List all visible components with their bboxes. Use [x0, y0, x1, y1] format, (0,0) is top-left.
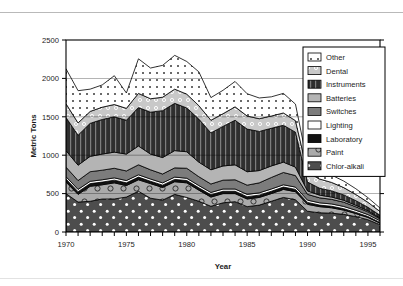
chart-legend: OtherDentalInstrumentsBatteriesSwitchesL…	[303, 47, 385, 176]
legend-swatch-switches	[308, 107, 321, 115]
legend-swatch-instruments	[308, 80, 321, 88]
y-tick-label: 2500	[42, 36, 59, 45]
x-tick-label: 1990	[299, 240, 316, 249]
y-tick-label: 2000	[42, 74, 59, 83]
y-tick-label: 0	[55, 228, 59, 237]
top-divider-rule	[0, 12, 403, 13]
x-tick-label: 1975	[118, 240, 135, 249]
y-tick-label: 1000	[42, 151, 59, 160]
legend-swatch-other	[308, 53, 321, 61]
legend-swatch-chlor-alkali	[308, 162, 321, 170]
legend-label-batteries: Batteries	[326, 94, 356, 103]
x-tick-label: 1985	[239, 240, 256, 249]
x-axis-title: Year	[215, 262, 231, 271]
legend-label-other: Other	[326, 53, 345, 62]
x-tick-label: 1970	[58, 240, 75, 249]
legend-label-laboratory: Laboratory	[326, 135, 363, 144]
legend-label-instruments: Instruments	[326, 80, 366, 89]
legend-swatch-dental	[308, 67, 321, 75]
y-tick-label: 500	[46, 189, 59, 198]
legend-label-switches: Switches	[326, 107, 357, 116]
legend-swatch-lighting	[308, 121, 321, 129]
bottom-divider-rule	[0, 278, 403, 279]
legend-label-dental: Dental	[326, 67, 348, 76]
legend-swatch-batteries	[308, 94, 321, 102]
x-tick-label: 1980	[178, 240, 195, 249]
stacked-area-chart: 05001000150020002500 1970197519801985199…	[0, 0, 403, 286]
x-tick-label: 1995	[359, 240, 376, 249]
x-axis-ticks: 197019751980198519901995	[58, 232, 380, 249]
legend-label-chlor-alkali: Chlor-alkali	[326, 162, 364, 171]
figure-container: 05001000150020002500 1970197519801985199…	[0, 0, 403, 286]
y-tick-label: 1500	[42, 113, 59, 122]
legend-label-paint: Paint	[326, 148, 344, 157]
legend-label-lighting: Lighting	[326, 121, 353, 130]
y-axis-title: Metric Tons	[29, 114, 38, 158]
legend-swatch-laboratory	[308, 135, 321, 143]
legend-swatch-paint	[308, 148, 321, 156]
